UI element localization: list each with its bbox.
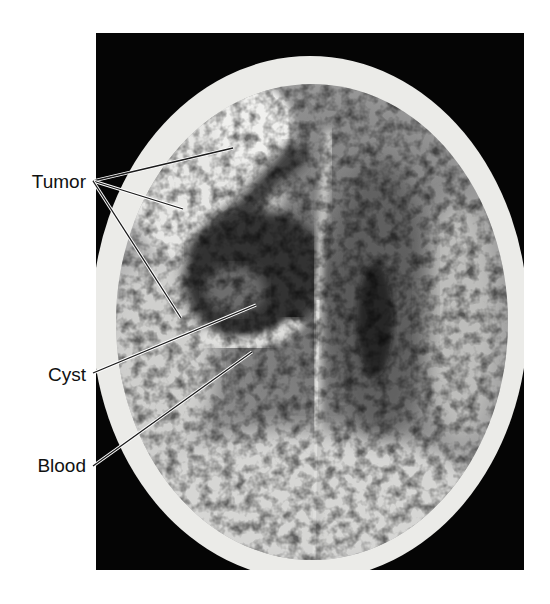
label-tumor: Tumor [6, 172, 86, 192]
ct-scan-image [0, 0, 550, 604]
ct-figure: Tumor Cyst Blood [0, 0, 550, 604]
label-cyst: Cyst [6, 365, 86, 385]
label-blood: Blood [6, 456, 86, 476]
